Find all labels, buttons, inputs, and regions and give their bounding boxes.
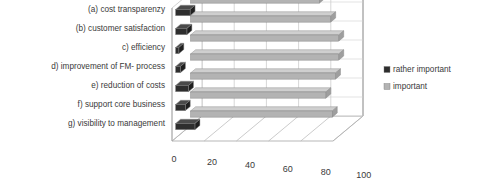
bar-important-2-top xyxy=(191,31,344,35)
bar-important-5-face xyxy=(191,92,326,98)
chart-canvas: (a) cost transparenzy(b) customer satisf… xyxy=(0,0,493,187)
bar-important-3 xyxy=(191,50,344,60)
bar-important-1-face xyxy=(191,16,331,22)
bar-rather-important-5-face xyxy=(176,104,186,110)
legend-label-0: rather important xyxy=(393,65,452,74)
category-label-0: (a) cost transparenzy xyxy=(88,5,166,14)
bar-chart-figure: (a) cost transparenzy(b) customer satisf… xyxy=(0,0,493,187)
bar-rather-important-0 xyxy=(176,5,195,15)
bar-important-6 xyxy=(191,107,338,117)
bar-important-2-face xyxy=(191,35,339,41)
bar-rather-important-2-face xyxy=(176,47,179,53)
bar-rather-important-4-face xyxy=(176,85,189,91)
bar-important-6-face xyxy=(191,111,333,117)
bar-rather-important-1-face xyxy=(176,28,187,34)
bar-important-0-face xyxy=(191,0,320,3)
light-square-marker xyxy=(384,84,390,90)
bar-rather-important-6 xyxy=(176,119,200,129)
x-axis-tick-100: 100 xyxy=(356,170,371,180)
category-label-6: g) visibility to management xyxy=(68,119,166,128)
x-axis-tick-0: 0 xyxy=(171,154,176,164)
x-axis-tick-40: 40 xyxy=(245,160,255,170)
bar-important-0 xyxy=(191,0,325,3)
x-axis-tick-80: 80 xyxy=(321,167,331,177)
bar-important-5-top xyxy=(191,88,331,92)
dark-square-marker xyxy=(384,67,390,73)
bar-important-5 xyxy=(191,88,331,98)
bar-important-1-top xyxy=(191,12,336,16)
category-label-1: (b) customer satisfaction xyxy=(76,24,166,33)
bar-important-4 xyxy=(191,69,341,79)
bar-rather-important-6-face xyxy=(176,123,195,129)
bar-important-4-top xyxy=(191,69,341,73)
bar-rather-important-3-face xyxy=(176,66,181,72)
x-axis-tick-20: 20 xyxy=(207,157,217,167)
category-label-2: c) efficiency xyxy=(122,43,166,52)
bar-important-4-face xyxy=(191,73,336,79)
bar-important-1 xyxy=(191,12,336,22)
chart-floor xyxy=(172,116,363,141)
bar-important-6-top xyxy=(191,107,338,111)
bar-important-3-face xyxy=(191,54,339,60)
bar-rather-important-0-face xyxy=(176,9,190,15)
legend-label-1: important xyxy=(393,82,428,91)
category-label-4: e) reduction of costs xyxy=(91,81,165,90)
x-axis-tick-60: 60 xyxy=(283,164,293,174)
bar-important-3-top xyxy=(191,50,344,54)
category-label-3: d) improvement of FM- process xyxy=(51,62,165,71)
category-label-5: f) support core business xyxy=(78,100,165,109)
bar-important-2 xyxy=(191,31,344,41)
